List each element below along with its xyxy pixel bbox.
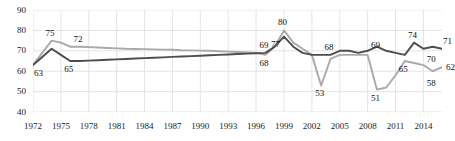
data-point-label: 69 <box>371 41 380 50</box>
data-point-label: 65 <box>399 65 408 74</box>
data-point-label: 70 <box>427 55 436 64</box>
y-tick-label: 50 <box>4 87 26 96</box>
data-point-label: 65 <box>64 65 73 74</box>
data-point-label: 74 <box>408 31 417 40</box>
data-point-label: 77 <box>271 40 280 49</box>
y-tick-label: 70 <box>4 46 26 55</box>
y-tick-label: 90 <box>4 6 26 15</box>
data-point-label: 71 <box>443 37 452 46</box>
data-point-label: 62 <box>446 63 455 72</box>
y-tick-label: 80 <box>4 26 26 35</box>
data-point-label: 75 <box>46 29 55 38</box>
data-point-label: 51 <box>371 94 380 103</box>
data-point-label: 68 <box>259 59 268 68</box>
data-point-label: 72 <box>73 35 82 44</box>
data-point-label: 53 <box>315 89 324 98</box>
series-canvas <box>33 10 442 112</box>
plot-area <box>33 10 442 112</box>
data-point-label: 63 <box>34 69 43 78</box>
y-tick-label: 60 <box>4 67 26 76</box>
data-point-label: 80 <box>278 18 287 27</box>
y-tick-label: 40 <box>4 108 26 117</box>
data-point-label: 68 <box>324 43 333 52</box>
data-point-label: 69 <box>259 41 268 50</box>
x-tick-label: 2014 <box>406 122 440 131</box>
data-point-label: 58 <box>427 79 436 88</box>
